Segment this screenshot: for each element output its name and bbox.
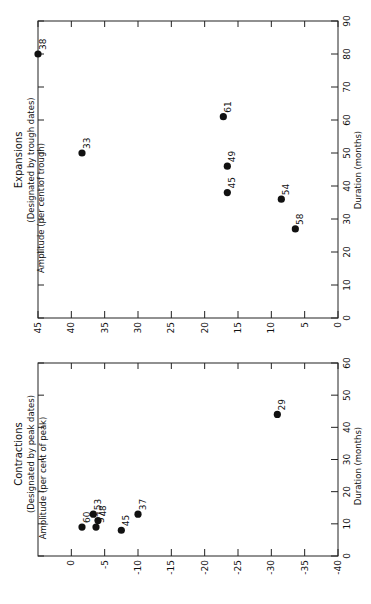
data-point-label: 57 (96, 512, 106, 523)
contractions-title: Contractions (13, 422, 24, 485)
duration-tick-label: 60 (342, 357, 352, 369)
amplitude-tick-label: -5 (100, 560, 110, 569)
data-point-label: 45 (121, 515, 131, 526)
chart-canvas: Expansions (Designated by trough dates) … (0, 0, 371, 604)
data-point-label: 54 (281, 183, 291, 195)
duration-tick-label: 20 (342, 486, 352, 498)
data-point-label: 38 (38, 38, 48, 50)
amplitude-tick-label: -30 (266, 560, 276, 575)
chart-figure: Expansions (Designated by trough dates) … (0, 0, 371, 604)
amplitude-tick-label: 30 (133, 322, 143, 334)
amplitude-tick-label: 25 (166, 322, 176, 333)
contractions-plot-frame: 0-5-10-15-20-25-30-35-400102030405060 (38, 357, 352, 575)
data-point (78, 523, 85, 530)
expansions-data-points: 38336149455458 (34, 38, 305, 232)
duration-tick-label: 40 (342, 180, 352, 192)
expansions-subtitle: (Designated by trough dates) (26, 97, 36, 222)
duration-tick-label: 30 (342, 213, 352, 225)
amplitude-tick-label: -15 (166, 560, 176, 575)
amplitude-tick-label: 15 (233, 322, 243, 333)
duration-tick-label: 60 (342, 114, 352, 126)
amplitude-tick-label: 5 (300, 322, 310, 328)
amplitude-tick-label: -20 (200, 560, 210, 575)
duration-tick-label: 40 (342, 421, 352, 433)
expansions-plot-frame: 0510152025303540450102030405060708090 (33, 15, 352, 333)
data-point-label: 61 (223, 101, 233, 112)
duration-tick-label: 0 (342, 315, 352, 321)
data-point (220, 113, 227, 120)
data-point (224, 163, 231, 170)
amplitude-tick-label: 10 (266, 322, 276, 334)
data-point-label: 29 (277, 399, 287, 411)
amplitude-tick-label: -40 (333, 560, 343, 575)
expansions-x-axis-label: Duration (months) (353, 131, 363, 209)
data-point (34, 50, 41, 57)
duration-tick-label: 90 (342, 15, 352, 27)
contractions-y-axis-label: Amplitude (per cent of peak) (38, 417, 48, 540)
duration-tick-label: 10 (342, 279, 352, 291)
amplitude-tick-label: -10 (133, 560, 143, 575)
amplitude-tick-label: -35 (300, 560, 310, 575)
expansions-panel: Expansions (Designated by trough dates) … (13, 15, 363, 333)
amplitude-tick-label: 20 (200, 322, 210, 334)
duration-tick-label: 50 (342, 389, 352, 401)
data-point (278, 196, 285, 203)
duration-tick-label: 80 (342, 48, 352, 60)
amplitude-tick-label: 45 (33, 322, 43, 333)
duration-tick-label: 10 (342, 518, 352, 530)
contractions-panel: Contractions (Designated by peak dates) … (13, 357, 363, 575)
contractions-data-points: 60534857453729 (78, 399, 287, 534)
amplitude-tick-label: 40 (66, 322, 76, 334)
data-point-label: 58 (295, 213, 305, 225)
contractions-subtitle: (Designated by peak dates) (26, 395, 36, 513)
duration-tick-label: 50 (342, 147, 352, 159)
data-point-label: 49 (227, 150, 237, 162)
data-point (78, 149, 85, 156)
data-point (292, 225, 299, 232)
duration-tick-label: 30 (342, 454, 352, 466)
expansions-title: Expansions (13, 132, 24, 189)
amplitude-tick-label: 0 (333, 322, 343, 328)
data-point-label: 33 (82, 138, 92, 149)
duration-tick-label: 70 (342, 81, 352, 93)
amplitude-tick-label: -25 (233, 560, 243, 575)
data-point (134, 511, 141, 518)
amplitude-tick-label: 35 (100, 322, 110, 333)
duration-tick-label: 0 (342, 553, 352, 559)
amplitude-tick-label: 0 (66, 560, 76, 566)
data-point-label: 37 (138, 499, 148, 510)
data-point (274, 411, 281, 418)
contractions-x-axis-label: Duration (months) (353, 427, 363, 505)
data-point (224, 189, 231, 196)
data-point (118, 527, 125, 534)
data-point (92, 523, 99, 530)
data-point-label: 45 (227, 177, 237, 188)
plot-frame-border (38, 21, 338, 318)
duration-tick-label: 20 (342, 246, 352, 258)
